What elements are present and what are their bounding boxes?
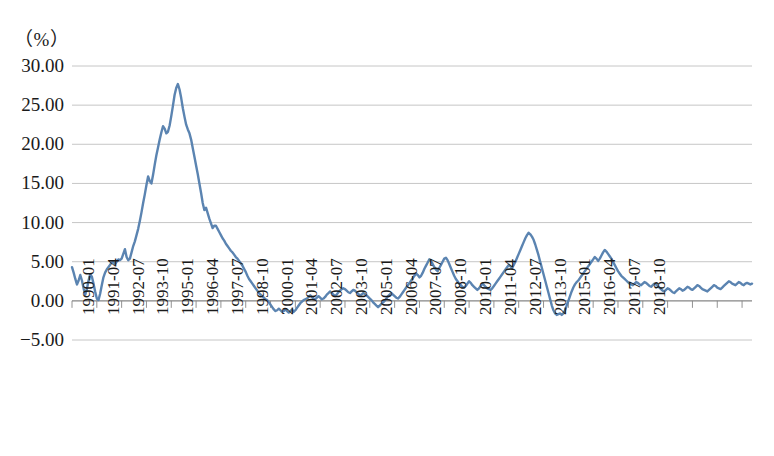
x-axis-tick-label: 2002-07 xyxy=(327,258,347,315)
x-axis-tick-label: 1990-01 xyxy=(79,258,99,315)
x-axis-tick-label: 1997-07 xyxy=(228,258,248,315)
x-axis-tick-label: 2007-07 xyxy=(426,258,446,315)
x-axis-tick-label: 2001-04 xyxy=(302,258,322,315)
y-axis-tick-label: 15.00 xyxy=(0,172,64,194)
y-axis-tick-label: 25.00 xyxy=(0,94,64,116)
x-axis-tick-label: 2017-07 xyxy=(625,258,645,315)
y-axis-tick-label: 20.00 xyxy=(0,133,64,155)
y-axis-tick-label: 10.00 xyxy=(0,212,64,234)
y-axis-tick-label: 5.00 xyxy=(0,251,64,273)
x-axis-tick-label: 1996-04 xyxy=(203,258,223,315)
x-axis-tick-label: 1998-10 xyxy=(253,258,273,315)
line-chart-plot xyxy=(0,0,774,456)
x-axis-tick-label: 2013-10 xyxy=(551,258,571,315)
x-axis-tick-label: 2016-04 xyxy=(600,258,620,315)
x-axis-tick-label: 1993-10 xyxy=(153,258,173,315)
x-axis-tick-label: 1991-04 xyxy=(104,258,124,315)
chart-container: （%） 30.0025.0020.0015.0010.005.000.00−5.… xyxy=(0,0,774,456)
x-axis-tick-label: 2005-01 xyxy=(377,258,397,315)
x-axis-tick-label: 2006-04 xyxy=(402,258,422,315)
x-axis-tick-label: 2008-10 xyxy=(451,258,471,315)
y-axis-unit-label: （%） xyxy=(14,24,69,51)
x-axis-tick-label: 2012-07 xyxy=(526,258,546,315)
x-axis-tick-label: 1995-01 xyxy=(178,258,198,315)
y-axis-tick-label: 30.00 xyxy=(0,55,64,77)
y-axis-tick-label: −5.00 xyxy=(0,329,64,351)
x-axis-tick-label: 2011-04 xyxy=(501,259,521,315)
x-axis-tick-label: 2010-01 xyxy=(476,258,496,315)
x-axis-tick-label: 2003-10 xyxy=(352,258,372,315)
y-axis-tick-label: 0.00 xyxy=(0,290,64,312)
x-axis-tick-label: 2018-10 xyxy=(650,258,670,315)
x-axis-tick-label: 2015-01 xyxy=(575,258,595,315)
x-axis-tick-label: 2000-01 xyxy=(278,258,298,315)
x-axis-tick-label: 1992-07 xyxy=(129,258,149,315)
